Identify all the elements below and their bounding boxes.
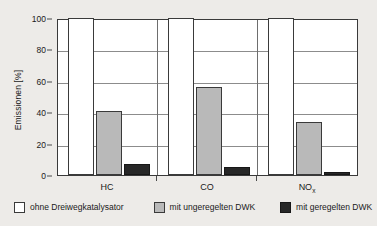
chart-legend: ohne Dreiwegkatalysator mit ungeregelten… bbox=[14, 199, 364, 215]
y-tick-label-20: 20 bbox=[37, 140, 46, 150]
y-tick-mark-80 bbox=[47, 50, 52, 51]
legend-label-ohne-dreiwegkatalysator: ohne Dreiwegkatalysator bbox=[30, 202, 124, 212]
x-category-label-nox-base: NO bbox=[299, 182, 313, 192]
y-axis-ticks: 100 80 60 40 20 0 bbox=[22, 14, 52, 180]
y-tick-mark-100 bbox=[47, 19, 52, 20]
y-tick-label-100: 100 bbox=[32, 14, 46, 24]
y-tick-label-80: 80 bbox=[37, 45, 46, 55]
legend-label-mit-ungeregelten-dwk: mit ungeregelten DWK bbox=[170, 202, 256, 212]
legend-swatch-white-icon bbox=[14, 202, 25, 213]
y-tick-mark-40 bbox=[47, 113, 52, 114]
legend-item-ohne-dreiwegkatalysator: ohne Dreiwegkatalysator bbox=[14, 202, 124, 213]
x-category-label-nox: NOx bbox=[299, 182, 316, 194]
x-tick-mark-1 bbox=[156, 176, 157, 181]
legend-item-mit-ungeregelten-dwk: mit ungeregelten DWK bbox=[154, 202, 256, 213]
x-category-label-nox-subscript: x bbox=[312, 187, 315, 194]
plot-area bbox=[57, 19, 358, 176]
x-axis: HC CO NOx bbox=[57, 176, 358, 196]
y-tick-mark-0 bbox=[47, 176, 52, 177]
y-tick-label-60: 60 bbox=[37, 77, 46, 87]
x-category-label-co: CO bbox=[200, 182, 214, 192]
y-tick-mark-60 bbox=[47, 81, 52, 82]
emissions-bar-chart: Emissionen [%] 100 80 60 40 20 0 bbox=[0, 0, 377, 226]
x-tick-mark-2 bbox=[256, 176, 257, 181]
bar-nox-mit-geregelten-dwk bbox=[324, 172, 350, 176]
legend-swatch-gray-icon bbox=[154, 202, 165, 213]
y-tick-mark-20 bbox=[47, 144, 52, 145]
legend-item-mit-geregelten-dwk: mit geregelten DWK bbox=[280, 202, 372, 213]
y-tick-label-0: 0 bbox=[41, 171, 46, 181]
bar-group-nox bbox=[58, 20, 357, 175]
x-category-label-hc: HC bbox=[101, 182, 114, 192]
legend-swatch-black-icon bbox=[280, 202, 291, 213]
legend-label-mit-geregelten-dwk: mit geregelten DWK bbox=[296, 202, 372, 212]
bar-nox-ohne-dreiwegkatalysator bbox=[268, 18, 294, 175]
bar-nox-mit-ungeregelten-dwk bbox=[296, 122, 322, 175]
y-tick-label-40: 40 bbox=[37, 108, 46, 118]
